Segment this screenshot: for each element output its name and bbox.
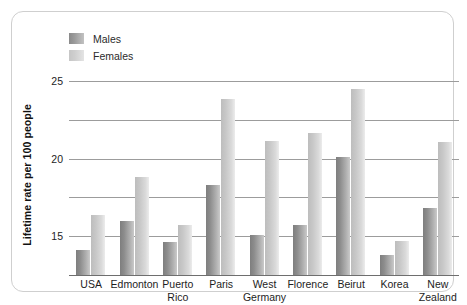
plot-area: 0510152025USAEdmontonPuertoRicoParisWest…	[69, 81, 459, 275]
bar-group: Paris	[206, 81, 235, 275]
bar-males-paris	[206, 185, 220, 275]
bar-males-florence	[293, 225, 307, 275]
chart-frame: Males Females Lifetime rate per 100 peop…	[11, 11, 454, 292]
x-tick-label-line: New	[402, 278, 467, 291]
x-tick-label-new-zealand: NewZealand	[402, 278, 467, 303]
bar-males-korea	[380, 255, 394, 275]
y-tick-label-20: 20	[51, 153, 63, 165]
bar-males-usa	[76, 250, 90, 275]
bar-group: PuertoRico	[163, 81, 192, 275]
bar-males-new-zealand	[423, 208, 437, 275]
legend-swatch-males	[69, 33, 84, 44]
bar-females-paris	[221, 99, 235, 275]
x-tick-label-line: Rico	[142, 291, 214, 304]
bar-group: Korea	[380, 81, 409, 275]
y-tick-label-15: 15	[51, 230, 63, 242]
legend-label-males: Males	[93, 33, 121, 45]
bar-group: Beirut	[336, 81, 365, 275]
bar-females-florence	[308, 133, 322, 275]
bar-males-west-germany	[250, 235, 264, 275]
bar-females-puerto-rico	[178, 225, 192, 275]
bar-females-korea	[395, 241, 409, 275]
y-axis-title-text: Lifetime rate per 100 people	[21, 104, 33, 246]
legend-label-females: Females	[93, 50, 133, 62]
bar-females-beirut	[351, 89, 365, 275]
bar-males-beirut	[336, 157, 350, 275]
bar-females-usa	[91, 215, 105, 275]
bar-group: Florence	[293, 81, 322, 275]
chart-legend: Males Females	[69, 30, 209, 64]
bar-group: USA	[76, 81, 105, 275]
bar-group: NewZealand	[423, 81, 452, 275]
legend-item-males: Males	[69, 30, 209, 47]
legend-swatch-females	[69, 50, 84, 61]
x-tick-label-line: Zealand	[402, 291, 467, 304]
bar-group: Edmonton	[120, 81, 149, 275]
figure: Males Females Lifetime rate per 100 peop…	[0, 0, 467, 305]
y-axis-title: Lifetime rate per 100 people	[20, 72, 34, 277]
bar-females-new-zealand	[438, 142, 452, 275]
bar-females-west-germany	[265, 141, 279, 275]
bar-males-edmonton	[120, 221, 134, 275]
bar-females-edmonton	[135, 177, 149, 275]
y-tick-label-25: 25	[51, 75, 63, 87]
bar-group: WestGermany	[250, 81, 279, 275]
x-axis-line: 0	[69, 275, 459, 276]
bar-males-puerto-rico	[163, 242, 177, 275]
x-tick-label-line: Germany	[229, 291, 301, 304]
legend-item-females: Females	[69, 47, 209, 64]
